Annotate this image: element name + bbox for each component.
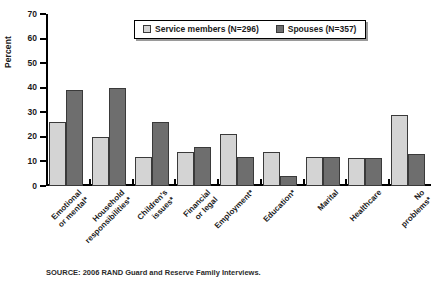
bar-group <box>89 14 132 186</box>
bar-chart-figure: Percent 010203040506070 Emotional or men… <box>0 0 438 281</box>
bar <box>237 157 254 186</box>
y-tick-label: 40 <box>28 82 37 92</box>
y-tick-label: 60 <box>28 33 37 43</box>
bar <box>348 158 365 186</box>
bar-group <box>388 14 431 186</box>
legend-entry: Spouses (N=357) <box>276 24 357 34</box>
bar <box>306 157 323 186</box>
x-axis-tick <box>260 179 262 186</box>
y-tick-label: 10 <box>28 156 37 166</box>
y-tick-label: 20 <box>28 131 37 141</box>
x-axis-tick <box>174 179 176 186</box>
bar <box>220 134 237 186</box>
chart-legend: Service members (N=296)Spouses (N=357) <box>134 20 366 39</box>
bars-layer <box>46 14 431 186</box>
bar-group <box>303 14 346 186</box>
x-axis-tick <box>217 179 219 186</box>
legend-swatch-icon <box>276 25 284 33</box>
y-tick-label: 50 <box>28 58 37 68</box>
bar-group <box>217 14 260 186</box>
bar <box>365 158 382 186</box>
legend-label: Service members (N=296) <box>155 24 259 34</box>
bar <box>152 122 169 186</box>
x-axis-tick <box>303 179 305 186</box>
bar <box>92 137 109 186</box>
bar-group <box>345 14 388 186</box>
bar-group <box>132 14 175 186</box>
x-axis-labels: Emotional or mental*Household responsibi… <box>46 186 431 254</box>
legend-swatch-icon <box>143 25 151 33</box>
bar-group <box>260 14 303 186</box>
bar <box>263 152 280 186</box>
bar-group <box>174 14 217 186</box>
x-axis-tick <box>345 179 347 186</box>
bar <box>177 152 194 186</box>
bar <box>280 176 297 186</box>
y-axis-title: Percent <box>4 54 13 68</box>
bar <box>109 88 126 186</box>
source-note: SOURCE: 2006 RAND Guard and Reserve Fami… <box>46 268 261 277</box>
legend-entry: Service members (N=296) <box>143 24 259 34</box>
bar-group <box>46 14 89 186</box>
y-tick-label: 30 <box>28 107 37 117</box>
y-tick-label: 0 <box>32 181 37 191</box>
bar <box>194 147 211 186</box>
bar <box>408 154 425 186</box>
x-axis-tick <box>388 179 390 186</box>
plot-area: 010203040506070 <box>46 14 431 186</box>
x-axis-tick <box>132 179 134 186</box>
bar <box>66 90 83 186</box>
bar <box>391 115 408 186</box>
bar <box>135 157 152 186</box>
bar <box>323 157 340 186</box>
bar <box>49 122 66 186</box>
x-axis-tick <box>89 179 91 186</box>
y-tick-label: 70 <box>28 9 37 19</box>
legend-label: Spouses (N=357) <box>288 24 357 34</box>
